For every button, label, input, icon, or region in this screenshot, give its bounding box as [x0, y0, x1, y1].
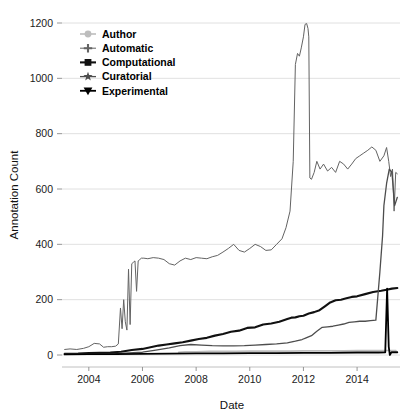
x-tick-label: 2008 [184, 373, 208, 385]
y-tick-label: 1200 [30, 17, 54, 29]
legend-label: Author [102, 28, 136, 40]
x-axis-title: Date [220, 399, 244, 411]
legend-label: Curatorial [102, 70, 152, 82]
y-tick-label: 0 [47, 349, 53, 361]
square-marker-icon [85, 59, 92, 66]
legend-label: Computational [102, 56, 176, 68]
y-tick-label: 600 [35, 183, 53, 195]
y-tick-label: 800 [35, 127, 53, 139]
x-tick-label: 2010 [238, 373, 262, 385]
x-tick-label: 2012 [292, 373, 316, 385]
y-tick-label: 400 [35, 238, 53, 250]
y-tick-label: 1000 [30, 72, 54, 84]
circle-marker-icon [85, 31, 92, 38]
y-tick-label: 200 [35, 293, 53, 305]
chart-background [0, 0, 408, 420]
legend-label: Automatic [102, 42, 153, 54]
x-tick-label: 2006 [131, 373, 155, 385]
legend-label: Experimental [102, 85, 168, 97]
chart-figure: 200420062008201020122014 020040060080010… [0, 0, 408, 420]
x-tick-label: 2004 [77, 373, 101, 385]
line-chart: 200420062008201020122014 020040060080010… [0, 0, 408, 420]
x-tick-label: 2014 [345, 373, 369, 385]
y-axis-title: Annotation Count [8, 150, 20, 240]
